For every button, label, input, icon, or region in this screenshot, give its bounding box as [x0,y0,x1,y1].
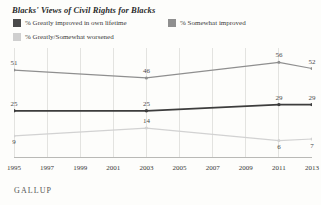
legend-label-greatly-improved: % Greatly improved in own lifetime [25,19,127,27]
x-axis-tick-label: 1999 [73,164,87,172]
data-point-marker [14,109,16,112]
data-point-marker [310,103,312,106]
legend-swatch-light-icon [13,33,21,41]
data-point-marker [277,61,280,64]
data-point-marker [145,127,148,130]
data-point-label: 25 [143,100,150,108]
data-point-marker [145,109,148,112]
series-line [14,128,312,141]
data-point-label: 29 [309,94,316,102]
data-point-label: 9 [12,138,16,146]
data-point-label: 46 [143,67,150,75]
gallup-line-chart-figure: Blacks' Views of Civil Rights for Blacks… [0,0,321,205]
x-axis-tick-label: 2005 [173,164,187,172]
series-line [14,105,312,111]
legend-item-worsened: % Greatly/Somewhat worsened [13,33,114,41]
x-axis-tick-label: 2007 [206,164,220,172]
data-point-marker [277,139,280,142]
gridlines [14,48,312,158]
data-point-label: 56 [275,51,282,59]
data-point-label: 6 [277,143,281,151]
series-lines [14,62,312,140]
data-point-label: 7 [310,142,314,150]
data-point-label: 14 [143,117,150,125]
legend-item-somewhat-improved: % Somewhat improved [168,19,246,27]
gallup-logo: GALLUP [14,186,52,195]
x-axis-tick-label: 2011 [272,164,286,172]
series-line [14,62,312,78]
legend-label-worsened: % Greatly/Somewhat worsened [25,33,114,41]
data-point-label: 51 [11,59,18,67]
x-axis-tick-label: 1995 [7,164,21,172]
legend-swatch-mid-icon [168,19,176,27]
data-point-marker [311,138,313,141]
legend-swatch-dark-icon [13,19,21,27]
plot-area: 514656522525292991467 [14,48,312,158]
data-point-marker [14,134,16,137]
x-axis-tick-label: 2003 [139,164,153,172]
page-title: Blacks' Views of Civil Rights for Blacks [12,5,155,15]
data-point-marker [277,103,280,106]
data-point-label: 25 [11,100,18,108]
data-point-label: 29 [275,94,282,102]
plot-svg [14,48,312,158]
x-axis-tick-label: 2001 [106,164,120,172]
x-axis-tick-label: 2009 [239,164,253,172]
data-point-marker [311,67,313,70]
legend-item-greatly-improved: % Greatly improved in own lifetime [13,19,127,27]
x-axis-tick-label: 1997 [40,164,54,172]
x-axis-tick-label: 2013 [305,164,319,172]
data-point-label: 52 [309,58,316,66]
data-point-marker [145,76,148,79]
data-point-marker [14,69,16,72]
legend-label-somewhat-improved: % Somewhat improved [180,19,246,27]
